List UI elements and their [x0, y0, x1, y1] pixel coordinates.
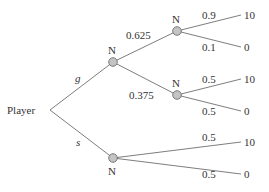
- nature-node-s: [109, 154, 118, 163]
- nature-node-mid: [173, 91, 182, 100]
- edge-s: [50, 110, 113, 158]
- prob-s-b: 0.5: [202, 168, 216, 180]
- prob-top-0.9: 0.9: [202, 9, 216, 21]
- game-tree-diagram: Player g s N N N N 0.625 0.375 0.9 0.1 0…: [0, 0, 269, 192]
- edge-s-0.5a: [113, 142, 241, 158]
- nature-node-top: [173, 27, 182, 36]
- payoff-3: 10: [244, 73, 256, 85]
- prob-mid-a: 0.5: [202, 73, 216, 85]
- nature-label-top: N: [172, 13, 180, 25]
- payoff-6: 0: [244, 168, 250, 180]
- nature-label-g: N: [108, 44, 116, 56]
- prob-mid-b: 0.5: [202, 105, 216, 117]
- action-s-label: s: [76, 136, 80, 148]
- player-label: Player: [7, 104, 35, 116]
- prob-top-0.1: 0.1: [202, 41, 216, 53]
- edge-g: [50, 62, 113, 110]
- payoff-1: 10: [244, 9, 256, 21]
- nature-label-mid: N: [172, 77, 180, 89]
- prob-0375: 0.375: [129, 89, 154, 101]
- prob-s-a: 0.5: [202, 131, 216, 143]
- prob-0625: 0.625: [126, 29, 151, 41]
- payoff-5: 10: [244, 136, 256, 148]
- action-g-label: g: [75, 72, 81, 84]
- edge-s-0.5b: [113, 158, 241, 174]
- nature-label-s: N: [108, 165, 116, 177]
- nature-node-g: [109, 58, 118, 67]
- payoff-4: 0: [244, 105, 250, 117]
- payoff-2: 0: [244, 41, 250, 53]
